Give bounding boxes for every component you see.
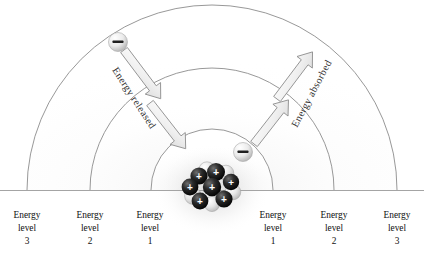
plus-icon: + xyxy=(209,181,215,193)
svg-text:level: level xyxy=(81,223,100,233)
labels-left: Energy level 3 Energy level 2 Energy lev… xyxy=(14,210,164,246)
svg-text:level: level xyxy=(18,223,37,233)
label-left-level-1: Energy level 1 xyxy=(137,210,164,246)
svg-text:level: level xyxy=(388,223,407,233)
minus-icon xyxy=(113,41,124,43)
label-right-level-1: Energy level 1 xyxy=(260,210,287,246)
svg-text:Energy: Energy xyxy=(137,210,164,220)
proton: + xyxy=(182,179,199,196)
plus-icon: + xyxy=(197,196,203,207)
svg-text:2: 2 xyxy=(88,236,93,246)
plus-icon: + xyxy=(228,177,234,188)
electron-inner-right xyxy=(234,143,253,162)
svg-text:Energy: Energy xyxy=(321,210,348,220)
svg-text:1: 1 xyxy=(271,236,276,246)
svg-text:3: 3 xyxy=(395,236,400,246)
minus-icon xyxy=(238,151,249,153)
labels-right: Energy level 1 Energy level 2 Energy lev… xyxy=(260,210,411,246)
label-left-level-2: Energy level 2 xyxy=(77,210,104,246)
svg-text:2: 2 xyxy=(332,236,337,246)
plus-icon: + xyxy=(221,194,227,205)
svg-text:1: 1 xyxy=(148,236,153,246)
energy-level-diagram: Energy released Energy absorbed + + xyxy=(0,0,424,256)
svg-text:Energy: Energy xyxy=(14,210,41,220)
proton: + xyxy=(192,193,209,210)
svg-text:level: level xyxy=(264,223,283,233)
svg-text:Energy: Energy xyxy=(260,210,287,220)
svg-text:Energy: Energy xyxy=(384,210,411,220)
electron-outer-left xyxy=(109,33,128,52)
plus-icon: + xyxy=(187,182,193,193)
label-right-level-2: Energy level 2 xyxy=(321,210,348,246)
plus-icon: + xyxy=(196,171,202,182)
label-left-level-3: Energy level 3 xyxy=(14,210,41,246)
label-right-level-3: Energy level 3 xyxy=(384,210,411,246)
proton: + xyxy=(223,174,239,190)
svg-text:Energy: Energy xyxy=(77,210,104,220)
diagram-canvas: Energy released Energy absorbed + + xyxy=(0,0,424,256)
svg-text:level: level xyxy=(141,223,160,233)
svg-text:3: 3 xyxy=(25,236,30,246)
svg-text:level: level xyxy=(325,223,344,233)
plus-icon: + xyxy=(213,166,219,178)
proton: + xyxy=(215,190,232,207)
